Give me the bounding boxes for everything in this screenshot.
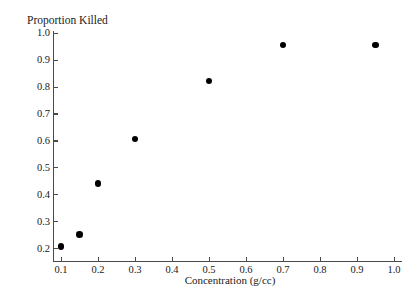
x-tick-mark bbox=[61, 257, 62, 261]
y-axis-title: Proportion Killed bbox=[27, 13, 108, 27]
y-tick-mark bbox=[54, 60, 58, 61]
y-tick-label: 0.2 bbox=[16, 242, 50, 255]
x-tick-mark bbox=[172, 257, 173, 261]
x-tick-mark bbox=[357, 257, 358, 261]
scatter-plot-figure: Proportion Killed 0.20.30.40.50.60.70.80… bbox=[0, 0, 418, 304]
data-point bbox=[132, 136, 139, 143]
y-tick-mark bbox=[54, 167, 58, 168]
y-tick-label: 0.8 bbox=[16, 80, 50, 93]
y-tick-mark bbox=[54, 194, 58, 195]
y-tick-label: 0.4 bbox=[16, 188, 50, 201]
data-point bbox=[372, 42, 379, 49]
y-tick-mark bbox=[54, 113, 58, 114]
x-tick-mark bbox=[320, 257, 321, 261]
data-point bbox=[280, 42, 287, 49]
data-point bbox=[206, 78, 213, 85]
y-tick-mark bbox=[54, 140, 58, 141]
data-point bbox=[95, 180, 102, 187]
y-tick-label: 0.9 bbox=[16, 53, 50, 66]
x-tick-mark bbox=[98, 257, 99, 261]
x-tick-mark bbox=[283, 257, 284, 261]
x-tick-mark bbox=[135, 257, 136, 261]
y-tick-label: 1.0 bbox=[16, 26, 50, 39]
y-tick-label: 0.3 bbox=[16, 215, 50, 228]
y-tick-mark bbox=[54, 221, 58, 222]
y-tick-label: 0.7 bbox=[16, 107, 50, 120]
x-tick-mark bbox=[394, 257, 395, 261]
y-axis-line bbox=[53, 31, 54, 262]
data-point bbox=[76, 231, 83, 238]
y-tick-mark bbox=[54, 87, 58, 88]
y-tick-label: 0.6 bbox=[16, 134, 50, 147]
x-tick-mark bbox=[246, 257, 247, 261]
y-tick-mark bbox=[54, 33, 58, 34]
data-point bbox=[58, 243, 65, 250]
x-tick-mark bbox=[209, 257, 210, 261]
y-tick-label: 0.5 bbox=[16, 161, 50, 174]
x-axis-title: Concentration (g/cc) bbox=[0, 273, 418, 287]
